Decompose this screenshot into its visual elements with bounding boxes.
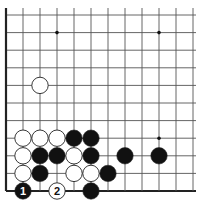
white-stone-icon	[66, 148, 82, 164]
white-stone-icon	[49, 130, 65, 146]
move-number-label: 2	[54, 185, 60, 197]
black-stone	[83, 130, 99, 146]
go-board: 12	[0, 0, 199, 203]
white-stone	[66, 148, 82, 164]
black-stone-icon	[66, 130, 82, 146]
black-stone	[83, 183, 99, 199]
black-stone-icon	[32, 165, 48, 181]
black-stone-icon	[100, 165, 116, 181]
black-stone: 1	[15, 183, 31, 199]
move-number-label: 1	[20, 185, 26, 197]
white-stone	[15, 165, 31, 181]
white-stone	[83, 165, 99, 181]
black-stone	[66, 130, 82, 146]
black-stone-icon	[83, 148, 99, 164]
black-stone-icon	[83, 183, 99, 199]
star-point-icon	[157, 31, 161, 35]
star-point-icon	[157, 136, 161, 140]
white-stone	[15, 148, 31, 164]
white-stone-icon	[15, 165, 31, 181]
star-point-icon	[55, 31, 59, 35]
white-stone	[15, 130, 31, 146]
white-stone-icon	[32, 130, 48, 146]
white-stone: 2	[49, 183, 65, 199]
white-stone-icon	[15, 148, 31, 164]
black-stone-icon	[83, 130, 99, 146]
white-stone-icon	[32, 77, 48, 93]
black-stone-icon	[49, 148, 65, 164]
black-stone-icon	[117, 148, 133, 164]
board-grid	[6, 8, 196, 191]
black-stone	[32, 148, 48, 164]
black-stone	[100, 165, 116, 181]
black-stone	[49, 148, 65, 164]
white-stone	[66, 165, 82, 181]
white-stone	[32, 130, 48, 146]
white-stone-icon	[15, 130, 31, 146]
black-stone	[83, 148, 99, 164]
black-stone	[151, 148, 167, 164]
white-stone	[32, 77, 48, 93]
white-stone-icon	[66, 165, 82, 181]
black-stone	[117, 148, 133, 164]
black-stone-icon	[32, 148, 48, 164]
white-stone	[49, 130, 65, 146]
white-stone-icon	[83, 165, 99, 181]
black-stone-icon	[151, 148, 167, 164]
black-stone	[32, 165, 48, 181]
